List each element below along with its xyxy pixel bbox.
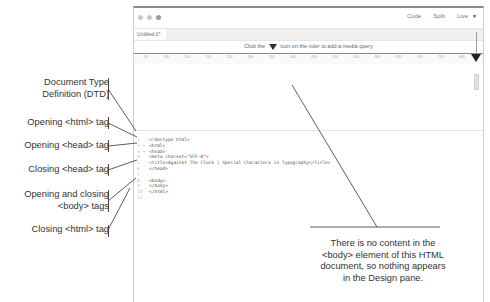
callout-html-open: Opening <html> tag	[27, 117, 109, 129]
ruler-tick: 50	[144, 55, 148, 59]
ruler-ticks: 50 100 150 200 250 300 350 400 450 500 5…	[144, 55, 465, 59]
ruler-tick: 500	[332, 55, 338, 59]
minimize-window-button[interactable]	[147, 15, 152, 20]
window-controls	[138, 15, 161, 20]
ruler-tick: 550	[353, 55, 359, 59]
zoom-window-button[interactable]	[156, 15, 161, 20]
ruler-tick: 150	[184, 55, 190, 59]
fold-arrow-icon[interactable]: ▾	[142, 143, 145, 148]
callout-head-open: Opening <head> tag	[24, 140, 109, 152]
document-tab[interactable]: Untitled-1*	[134, 29, 166, 40]
ruler-tick: 700	[417, 55, 423, 59]
live-view-dropdown[interactable]: Live ▼	[457, 13, 477, 19]
ruler-tick: 400	[290, 55, 296, 59]
close-window-button[interactable]	[138, 15, 143, 20]
design-pane[interactable]	[134, 64, 483, 131]
media-query-bar: Click the icon on the ruler to add a med…	[134, 40, 483, 52]
callout-bracket	[108, 140, 109, 152]
media-query-hint-before: Click the	[244, 43, 265, 49]
fold-arrow-icon[interactable]: ▾	[142, 149, 145, 154]
ruler-tick: 750	[438, 55, 444, 59]
view-switcher: Code Split Live ▼	[407, 13, 477, 19]
chevron-down-icon: ▼	[472, 13, 477, 19]
code-view-button[interactable]: Code	[407, 13, 421, 19]
code-line-title: <title>Against The Clock | Special Chara…	[149, 160, 331, 166]
ruler-tick: 300	[248, 55, 254, 59]
media-query-marker-icon	[269, 44, 277, 50]
callout-bracket	[108, 117, 109, 129]
callout-html-close: Closing <html> tag	[31, 224, 109, 236]
add-media-query-icon[interactable]	[471, 54, 481, 62]
ruler-tick: 450	[311, 55, 317, 59]
design-pane-scrollbar[interactable]	[474, 74, 479, 90]
callout-bracket	[108, 164, 109, 176]
title-bar: Code Split Live ▼	[134, 8, 483, 28]
ruler-tick: 600	[374, 55, 380, 59]
callout-bracket	[108, 78, 109, 100]
code-editor[interactable]: <!doctype html> <html> <head> <meta char…	[149, 137, 331, 201]
ruler-tick: 350	[269, 55, 275, 59]
ruler-tick: 800	[459, 55, 465, 59]
ruler-tick: 650	[396, 55, 402, 59]
callout-bracket	[108, 225, 109, 237]
ruler-tick: 200	[205, 55, 211, 59]
callout-head-close: Closing <head> tag	[28, 164, 109, 176]
callout-dtd: Document Type Definition (DTD)	[42, 77, 109, 100]
live-view-label: Live	[457, 13, 468, 19]
ruler-tick: 250	[227, 55, 233, 59]
callout-body-tags: Opening and closing <body> tags	[24, 189, 109, 212]
media-query-guide-line	[476, 32, 477, 54]
media-query-hint-after: icon on the ruler to add a media query	[280, 43, 373, 49]
split-view-button[interactable]: Split	[433, 13, 445, 19]
ruler-tick: 100	[163, 55, 169, 59]
code-line-empty	[149, 195, 331, 201]
design-pane-note: There is no content in the <body> elemen…	[312, 238, 454, 284]
callout-bracket	[108, 190, 109, 212]
